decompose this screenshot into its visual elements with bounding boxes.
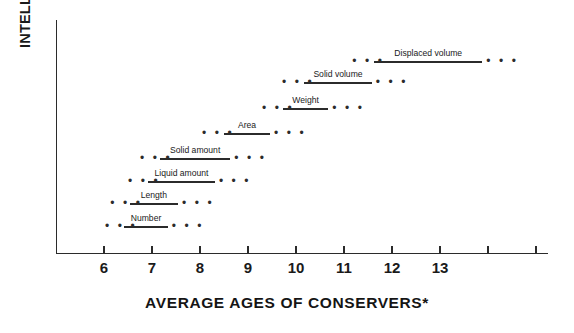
chart-row: • • •• • •Length xyxy=(0,191,574,211)
range-dots-left: • • • xyxy=(128,177,160,186)
series-label: Liquid amount xyxy=(148,168,215,178)
range-dots-right: • • • xyxy=(219,177,251,186)
series-label: Solid amount xyxy=(160,145,230,155)
series-label: Displaced volume xyxy=(374,48,482,58)
range-dots-left: • • • xyxy=(352,57,384,66)
range-dots-right: • • • xyxy=(376,78,408,87)
x-tick-mark xyxy=(295,246,296,253)
chart-row: • • •• • •Displaced volume xyxy=(0,49,574,69)
range-dots-left: • • • xyxy=(110,199,142,208)
x-tick-mark xyxy=(247,246,248,253)
chart-row: • • •• • •Number xyxy=(0,214,574,234)
range-dots-left: • • • xyxy=(105,222,137,231)
chart-row: • • •• • •Weight xyxy=(0,96,574,116)
series-label: Solid volume xyxy=(304,69,372,79)
x-tick-label: 8 xyxy=(180,259,220,276)
range-dots-left: • • • xyxy=(282,78,314,87)
y-axis-title: INTELLECTUAL DEVELOPMENT xyxy=(10,0,40,48)
x-tick-mark xyxy=(343,246,344,253)
series-label: Weight xyxy=(283,95,328,105)
range-dots-left: • • • xyxy=(202,129,234,138)
range-dots-right: • • • xyxy=(182,199,214,208)
chart-row: • • •• • •Solid amount xyxy=(0,146,574,166)
x-tick-label: 7 xyxy=(132,259,172,276)
range-dots-right: • • • xyxy=(486,57,518,66)
x-tick-mark xyxy=(199,246,200,253)
x-tick-label: 6 xyxy=(84,259,124,276)
range-dots-right: • • • xyxy=(332,104,364,113)
range-dots-right: • • • xyxy=(172,222,204,231)
x-tick-mark xyxy=(487,246,488,253)
chart-row: • • •• • •Liquid amount xyxy=(0,169,574,189)
x-tick-mark xyxy=(391,246,392,253)
range-dots-right: • • • xyxy=(234,154,266,163)
x-tick-label: 9 xyxy=(228,259,268,276)
chart-row: • • •• • •Area xyxy=(0,121,574,141)
x-tick-mark xyxy=(535,246,536,253)
x-tick-label: 12 xyxy=(372,259,412,276)
x-tick-mark xyxy=(151,246,152,253)
x-tick-mark xyxy=(439,246,440,253)
x-axis-line xyxy=(56,253,548,254)
x-tick-label: 13 xyxy=(420,259,460,276)
range-bar xyxy=(374,61,482,63)
chart-figure: INTELLECTUAL DEVELOPMENT 678910111213 • … xyxy=(0,0,574,333)
chart-row: • • •• • •Solid volume xyxy=(0,70,574,90)
x-tick-label: 11 xyxy=(324,259,364,276)
x-tick-label: 10 xyxy=(276,259,316,276)
x-tick-mark xyxy=(103,246,104,253)
series-label: Area xyxy=(224,120,270,130)
x-axis-title: AVERAGE AGES OF CONSERVERS* xyxy=(0,294,574,312)
series-label: Number xyxy=(124,213,168,223)
range-dots-right: • • • xyxy=(274,129,306,138)
series-label: Length xyxy=(130,190,178,200)
range-dots-left: • • • xyxy=(140,154,172,163)
range-dots-left: • • • xyxy=(262,104,294,113)
